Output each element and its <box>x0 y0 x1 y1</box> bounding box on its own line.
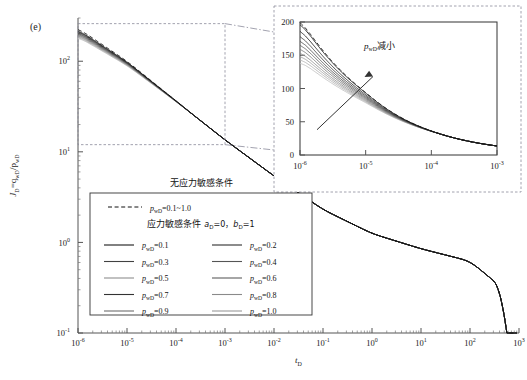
y-tick-label: 101 <box>59 146 71 157</box>
x-tick-label: 103 <box>513 337 525 348</box>
connector-top <box>225 24 274 32</box>
inset-y-tick-label: 0 <box>290 150 294 160</box>
legend-label-1_0: pwD=1.0 <box>249 307 277 317</box>
x-tick-label: 10-3 <box>218 337 232 348</box>
legend-box <box>90 193 312 315</box>
legend-label-0_8: pwD=0.8 <box>249 291 277 301</box>
legend-label-0_4: pwD=0.4 <box>249 258 277 268</box>
figure-panel-e: 10-610-510-410-310-210-110010110210310-1… <box>0 0 527 380</box>
y-tick-label: 102 <box>59 55 71 66</box>
legend-label-0_7: pwD=0.7 <box>141 291 169 301</box>
legend-label-0_1: pwD=0.1 <box>141 241 169 251</box>
legend-label-0_9: pwD=0.9 <box>141 307 169 317</box>
inset-y-tick-label: 50 <box>286 117 295 127</box>
legend-header-no-stress: 无应力敏感条件 <box>170 177 233 188</box>
x-tick-label: 100 <box>366 337 378 348</box>
chart-svg: 10-610-510-410-310-210-110010110210310-1… <box>0 0 527 380</box>
legend-label-0_5: pwD=0.5 <box>141 274 169 284</box>
y-tick-label: 100 <box>59 237 71 248</box>
inset-background <box>274 6 521 192</box>
x-tick-label: 10-1 <box>316 337 330 348</box>
legend-label-0_3: pwD=0.3 <box>141 258 169 268</box>
x-tick-label: 10-6 <box>71 337 85 348</box>
y-tick-label: 10-1 <box>57 327 71 338</box>
x-tick-label: 10-2 <box>267 337 281 348</box>
x-axis-title: tD <box>295 355 303 367</box>
zoom-box <box>78 24 225 145</box>
x-tick-label: 102 <box>464 337 476 348</box>
inset-annotation: pwD减小 <box>363 40 395 53</box>
inset-y-tick-label: 100 <box>281 84 294 94</box>
x-tick-label: 10-4 <box>169 337 183 348</box>
panel-label: (e) <box>30 21 41 33</box>
y-axis-title: JD=qwD/pwD <box>8 154 20 197</box>
inset-y-tick-label: 150 <box>281 50 294 60</box>
x-tick-label: 101 <box>415 337 427 348</box>
legend: 无应力敏感条件pwD=0.1~1.0应力敏感条件 aD=0，bD=1pwD=0.… <box>90 177 312 318</box>
legend-label-0_6: pwD=0.6 <box>249 274 277 284</box>
inset-y-tick-label: 200 <box>281 17 294 27</box>
inset-chart: 05010015020010-610-510-410-3pwD减小 <box>274 6 521 192</box>
x-tick-label: 10-5 <box>120 337 134 348</box>
inset-connectors <box>225 24 274 150</box>
zoom-box-group <box>78 24 225 145</box>
legend-label-0_2: pwD=0.2 <box>249 241 277 251</box>
